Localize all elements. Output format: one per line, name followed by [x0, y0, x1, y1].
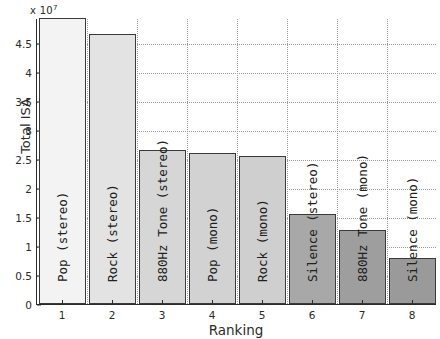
x-tick-mark — [112, 300, 113, 304]
y-tick-mark — [37, 305, 41, 306]
bar[interactable]: Pop (stereo) — [39, 18, 86, 304]
bar[interactable]: Rock (stereo) — [89, 34, 136, 304]
bar-chart-figure: x 107 Total ISA 00.511.522.533.544.5Pop … — [0, 0, 440, 339]
x-tick-mark — [412, 300, 413, 304]
bar-label: Rock (mono) — [255, 199, 270, 282]
bar[interactable]: Silence (mono) — [389, 258, 436, 304]
bar[interactable]: 880Hz Tone (mono) — [339, 230, 386, 304]
x-tick-label: 8 — [409, 309, 416, 321]
bar[interactable]: 880Hz Tone (stereo) — [139, 150, 186, 304]
x-tick-mark — [362, 300, 363, 304]
y-tick-label: 3 — [25, 125, 32, 137]
bar-label: 880Hz Tone (mono) — [355, 154, 370, 282]
x-tick-mark — [162, 300, 163, 304]
bar-label: Pop (mono) — [205, 207, 220, 282]
x-tick-label: 6 — [309, 309, 316, 321]
x-tick-mark — [312, 300, 313, 304]
plot-area: 00.511.522.533.544.5Pop (stereo)1Rock (s… — [36, 19, 436, 305]
y-tick-label: 1 — [25, 241, 32, 253]
y-tick-label: 2.5 — [15, 154, 32, 166]
x-tick-label: 4 — [209, 309, 216, 321]
y-tick-label: 2 — [25, 183, 32, 195]
y-tick-label: 0 — [25, 299, 32, 311]
x-tick-label: 2 — [109, 309, 116, 321]
x-tick-mark — [62, 300, 63, 304]
bar[interactable]: Rock (mono) — [239, 156, 286, 304]
y-tick-label: 1.5 — [15, 212, 32, 224]
x-axis-title: Ranking — [36, 322, 436, 338]
bar-label: 880Hz Tone (stereo) — [155, 139, 170, 282]
bar[interactable]: Pop (mono) — [189, 153, 236, 304]
x-tick-mark — [262, 300, 263, 304]
x-tick-mark — [212, 300, 213, 304]
y-tick-label: 4.5 — [15, 38, 32, 50]
bar-label: Pop (stereo) — [55, 192, 70, 282]
y-tick-label: 0.5 — [15, 270, 32, 282]
bar-label: Rock (stereo) — [105, 184, 120, 282]
x-tick-label: 7 — [359, 309, 366, 321]
x-tick-label: 3 — [159, 309, 166, 321]
bar-label: Silence (mono) — [405, 177, 420, 282]
x-tick-label: 5 — [259, 309, 266, 321]
y-tick-label: 3.5 — [15, 96, 32, 108]
y-axis-multiplier-exponent: 7 — [53, 4, 58, 12]
y-axis-multiplier-base: x 10 — [30, 5, 53, 16]
y-tick-label: 4 — [25, 67, 32, 79]
bar[interactable]: Silence (stereo) — [289, 214, 336, 304]
bar-label: Silence (stereo) — [305, 162, 320, 282]
y-axis-multiplier: x 107 — [30, 4, 58, 16]
x-tick-label: 1 — [59, 309, 66, 321]
